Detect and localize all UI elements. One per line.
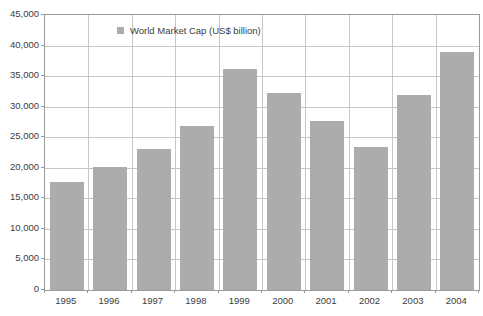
y-axis-label: 45,000: [0, 9, 39, 19]
x-axis-tick: [478, 290, 479, 293]
y-axis-label: 25,000: [0, 131, 39, 141]
y-axis-tick: [41, 75, 44, 76]
bar-1998: [180, 126, 214, 290]
x-axis-tick: [44, 290, 45, 293]
y-axis-tick: [41, 136, 44, 137]
y-axis-label: 10,000: [0, 223, 39, 233]
plot-area: World Market Cap (US$ billion): [44, 14, 480, 291]
x-axis-label: 1995: [44, 295, 87, 306]
gridline-v: [219, 15, 220, 290]
bar-chart: World Market Cap (US$ billion) 05,00010,…: [0, 0, 483, 316]
gridline-v: [132, 15, 133, 290]
x-axis-label: 2003: [391, 295, 434, 306]
gridline-v: [349, 15, 350, 290]
bar-2002: [354, 147, 388, 290]
y-axis-label: 15,000: [0, 192, 39, 202]
legend-swatch-icon: [117, 27, 124, 34]
gridline-v: [262, 15, 263, 290]
x-axis-label: 1999: [218, 295, 261, 306]
gridline-v: [175, 15, 176, 290]
bar-1997: [137, 149, 171, 290]
y-axis-label: 40,000: [0, 40, 39, 50]
y-axis-label: 35,000: [0, 70, 39, 80]
x-axis-label: 1997: [131, 295, 174, 306]
bar-1996: [93, 167, 127, 290]
bar-2000: [267, 93, 301, 290]
gridline-v: [436, 15, 437, 290]
legend: World Market Cap (US$ billion): [117, 25, 261, 36]
y-axis-tick: [41, 228, 44, 229]
y-axis-tick: [41, 106, 44, 107]
x-axis-tick: [435, 290, 436, 293]
y-axis-label: 5,000: [0, 253, 39, 263]
gridline-v: [392, 15, 393, 290]
x-axis-tick: [174, 290, 175, 293]
y-axis-label: 30,000: [0, 101, 39, 111]
x-axis-tick: [87, 290, 88, 293]
y-axis-tick: [41, 289, 44, 290]
bar-2003: [397, 95, 431, 290]
gridline-v: [88, 15, 89, 290]
y-axis-tick: [41, 167, 44, 168]
legend-label: World Market Cap (US$ billion): [130, 25, 261, 36]
x-axis-tick: [261, 290, 262, 293]
bar-1999: [223, 69, 257, 290]
x-axis-label: 2001: [304, 295, 347, 306]
bar-1995: [50, 182, 84, 290]
x-axis-label: 2002: [348, 295, 391, 306]
gridline-v: [305, 15, 306, 290]
x-axis-tick: [304, 290, 305, 293]
x-axis-label: 1998: [174, 295, 217, 306]
y-axis-tick: [41, 14, 44, 15]
bar-2004: [440, 52, 474, 290]
x-axis-tick: [391, 290, 392, 293]
x-axis-tick: [131, 290, 132, 293]
x-axis-tick: [348, 290, 349, 293]
x-axis-label: 2000: [261, 295, 304, 306]
y-axis-tick: [41, 45, 44, 46]
y-axis-tick: [41, 197, 44, 198]
x-axis-label: 2004: [435, 295, 478, 306]
y-axis-label: 20,000: [0, 162, 39, 172]
y-axis-tick: [41, 258, 44, 259]
x-axis-label: 1996: [87, 295, 130, 306]
bar-2001: [310, 121, 344, 290]
x-axis-tick: [218, 290, 219, 293]
y-axis-label: 0: [0, 284, 39, 294]
